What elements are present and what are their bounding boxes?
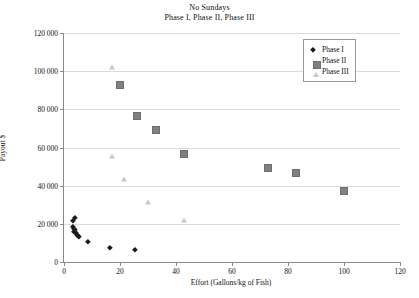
triangle-marker (145, 199, 151, 204)
triangle-marker (109, 65, 115, 70)
x-axis-tick-label: 20 (116, 267, 124, 276)
x-axis-tick (64, 262, 65, 266)
data-point (181, 218, 187, 223)
square-marker (133, 112, 141, 120)
x-axis-tick (176, 262, 177, 266)
x-axis-tick (288, 262, 289, 266)
x-axis-tick (232, 262, 233, 266)
data-point (152, 126, 160, 134)
chart-title: No Sundays (0, 3, 419, 13)
triangle-marker (109, 154, 115, 159)
y-axis-tick (60, 148, 64, 149)
triangle-marker (121, 176, 127, 181)
gridline (64, 109, 400, 110)
data-point (340, 187, 348, 195)
gridline (64, 148, 400, 149)
gridline (64, 33, 400, 34)
x-axis-tick-label: 100 (338, 267, 349, 276)
y-axis-tick (60, 224, 64, 225)
data-point (88, 242, 92, 246)
square-marker (264, 164, 272, 172)
y-axis-tick (60, 71, 64, 72)
data-point (145, 199, 151, 204)
diamond-marker (132, 247, 138, 253)
x-axis-tick (400, 262, 401, 266)
diamond-marker (107, 245, 113, 251)
chart-subtitle: Phase I, Phase II, Phase III (0, 13, 419, 23)
x-axis-tick (344, 262, 345, 266)
data-point (109, 65, 115, 70)
data-point (109, 154, 115, 159)
triangle-marker (313, 72, 319, 77)
legend-marker (309, 46, 317, 54)
data-point (264, 164, 272, 172)
y-axis-tick-label: 120 000 (34, 29, 58, 38)
data-point (135, 250, 139, 254)
square-marker (180, 150, 188, 158)
data-point (121, 176, 127, 181)
x-axis-tick-label: 120 (394, 267, 405, 276)
square-marker (292, 169, 300, 177)
chart-title-block: No Sundays Phase I, Phase II, Phase III (0, 3, 419, 23)
y-axis-title: Payout $ (0, 108, 7, 188)
gridline (64, 186, 400, 187)
y-axis-tick-label: 60 000 (37, 143, 58, 152)
data-point (116, 81, 124, 89)
y-axis-tick-label: 20 000 (37, 219, 58, 228)
chart-figure: No Sundays Phase I, Phase II, Phase III … (0, 0, 419, 298)
triangle-marker (181, 218, 187, 223)
data-point (110, 248, 114, 252)
data-point (79, 237, 83, 241)
legend-label: Phase II (322, 56, 346, 65)
y-axis-tick-label: 40 000 (37, 181, 58, 190)
x-axis-tick-label: 40 (172, 267, 180, 276)
square-marker (116, 81, 124, 89)
x-axis-tick-label: 80 (284, 267, 292, 276)
x-axis-tick (120, 262, 121, 266)
legend-item-phase-i[interactable]: Phase I (309, 44, 349, 55)
y-axis-tick (60, 109, 64, 110)
legend-label: Phase III (322, 67, 349, 76)
gridline (64, 224, 400, 225)
y-axis-tick-label: 80 000 (37, 105, 58, 114)
legend-item-phase-ii[interactable]: Phase II (309, 55, 349, 66)
data-point (292, 169, 300, 177)
x-axis-tick-label: 60 (228, 267, 236, 276)
square-marker (152, 126, 160, 134)
diamond-marker (85, 239, 91, 245)
y-axis-tick (60, 186, 64, 187)
legend-item-phase-iii[interactable]: Phase III (309, 66, 349, 77)
diamond-marker (310, 47, 316, 53)
x-axis-title: Effort (Gallons/kg of Fish) (63, 278, 399, 287)
x-axis-tick-label: 0 (62, 267, 66, 276)
legend-label: Phase I (322, 45, 344, 54)
y-axis-tick-label: 0 (54, 258, 58, 267)
data-point (180, 150, 188, 158)
legend-marker (309, 57, 317, 65)
legend: Phase IPhase IIPhase III (303, 39, 356, 82)
y-axis-tick (60, 33, 64, 34)
square-marker (340, 187, 348, 195)
legend-marker (309, 68, 317, 76)
y-axis-tick-label: 100 000 (34, 67, 58, 76)
data-point (133, 112, 141, 120)
